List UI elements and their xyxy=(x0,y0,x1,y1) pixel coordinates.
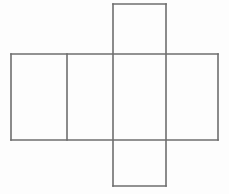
face-front xyxy=(67,54,113,140)
face-bottom-flap xyxy=(113,140,166,186)
face-top-flap xyxy=(113,4,166,54)
net-faces-group xyxy=(11,4,218,186)
face-center xyxy=(113,54,166,140)
net-diagram-svg xyxy=(0,0,229,194)
cuboid-net-figure xyxy=(0,0,229,194)
face-right-end xyxy=(166,54,218,140)
face-left-end xyxy=(11,54,67,140)
